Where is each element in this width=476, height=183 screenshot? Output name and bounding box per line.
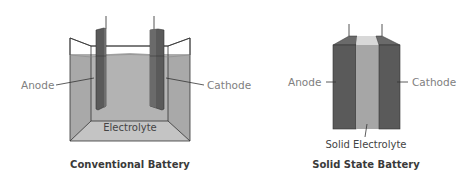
conventional-electrolyte-label: Electrolyte <box>103 122 156 133</box>
solid-state-battery: Anode Cathode Solid Electrolyte Solid St… <box>288 24 456 170</box>
top-bevel-electrolyte <box>356 36 379 45</box>
top-bevel-anode <box>333 36 357 45</box>
solid-cathode-block <box>379 45 400 129</box>
cathode-electrode <box>150 16 164 110</box>
solid-cathode-label: Cathode <box>412 76 456 88</box>
top-bevel-cathode <box>376 36 400 45</box>
solid-anode-block <box>333 45 356 129</box>
conventional-cathode-label: Cathode <box>207 79 251 91</box>
battery-comparison-diagram: Anode Cathode Electrolyte Conventional B… <box>0 0 476 183</box>
conventional-battery-title: Conventional Battery <box>70 159 190 170</box>
conventional-anode-label: Anode <box>21 79 54 91</box>
container-back-upper <box>70 38 190 55</box>
solid-anode-label: Anode <box>288 76 321 88</box>
solid-electrolyte-label: Solid Electrolyte <box>326 139 407 150</box>
solid-electrolyte-block <box>356 45 379 129</box>
conventional-battery: Anode Cathode Electrolyte Conventional B… <box>21 16 251 170</box>
solid-state-battery-title: Solid State Battery <box>312 159 420 170</box>
anode-electrode <box>96 16 106 110</box>
